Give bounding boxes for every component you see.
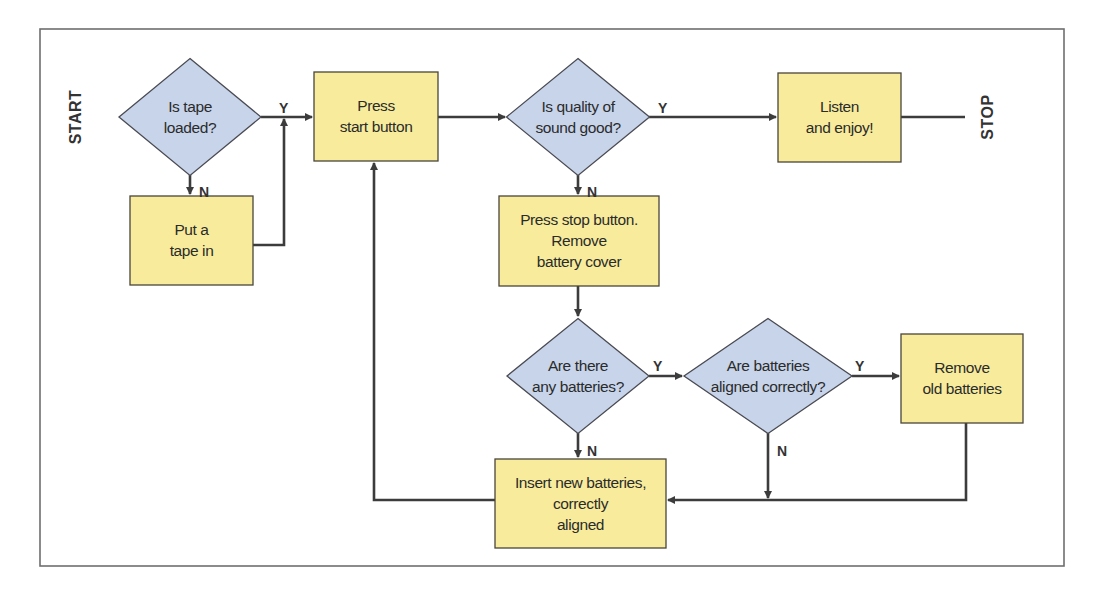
stop-terminal-label: STOP <box>979 94 996 139</box>
process-node-listen: Listenand enjoy! <box>778 73 901 162</box>
node-text-line: and enjoy! <box>806 119 874 136</box>
node-text-line: Is quality of <box>541 98 615 115</box>
node-text-line: battery cover <box>537 253 622 270</box>
process-box-shape <box>130 196 253 285</box>
node-text-line: Is tape <box>168 98 212 115</box>
node-text-line: Are batteries <box>727 357 810 374</box>
process-node-insert-new: Insert new batteries,correctlyaligned <box>495 459 666 548</box>
process-node-remove-old: Removeold batteries <box>901 334 1023 423</box>
node-text-line: old batteries <box>922 380 1002 397</box>
flowchart-diagram: Is tapeloaded?Put atape inPressstart but… <box>0 0 1102 592</box>
process-box-shape <box>901 334 1023 423</box>
process-node-press-start: Pressstart button <box>314 72 438 161</box>
node-text-line: Put a <box>174 221 209 238</box>
yes-branch-label: Y <box>279 100 289 116</box>
no-branch-label: N <box>587 184 597 200</box>
node-text-line: Remove <box>551 232 606 249</box>
node-text-line: Insert new batteries, <box>515 474 646 491</box>
node-text-line: tape in <box>170 242 214 259</box>
node-text-line: Press stop button. <box>520 211 638 228</box>
process-box-shape <box>778 73 901 162</box>
node-text-line: aligned correctly? <box>711 378 826 395</box>
node-text-line: Press <box>357 97 395 114</box>
node-text-line: start button <box>340 118 413 135</box>
yes-branch-label: Y <box>855 358 865 374</box>
process-node-press-stop: Press stop button.Removebattery cover <box>499 196 659 286</box>
process-node-put-tape: Put atape in <box>130 196 253 285</box>
node-text-line: any batteries? <box>532 378 625 395</box>
no-branch-label: N <box>199 184 209 200</box>
node-text-line: correctly <box>553 495 609 512</box>
node-text-line: loaded? <box>164 119 217 136</box>
no-branch-label: N <box>777 443 787 459</box>
node-text-line: aligned <box>557 516 604 533</box>
node-text-line: Are there <box>548 357 608 374</box>
process-box-shape <box>314 72 438 161</box>
node-text-line: Remove <box>934 359 989 376</box>
start-terminal-label: START <box>67 90 84 145</box>
node-text-line: sound good? <box>535 119 621 136</box>
no-branch-label: N <box>587 443 597 459</box>
node-text-line: Listen <box>820 98 859 115</box>
yes-branch-label: Y <box>653 358 663 374</box>
yes-branch-label: Y <box>658 100 668 116</box>
